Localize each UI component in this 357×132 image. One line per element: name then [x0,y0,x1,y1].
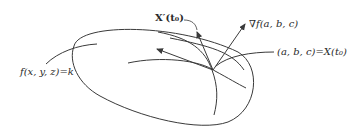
surface-curve-diagonal [170,38,244,70]
surface-label-leader [46,44,97,64]
tangent-vector-label: X′(t₀) [155,13,184,23]
curve-x-of-t [158,32,217,115]
gradient-vector [213,24,245,70]
point-label: (a, b, c)=X(t₀) [277,47,347,57]
gradient-label: ∇f(a, b, c) [249,19,298,29]
point-label-leader [216,52,274,66]
surface-curve-horizontal [128,60,246,88]
tangent-label-leader [184,20,197,30]
surface-label: f(x, y, z)=k [20,67,74,77]
